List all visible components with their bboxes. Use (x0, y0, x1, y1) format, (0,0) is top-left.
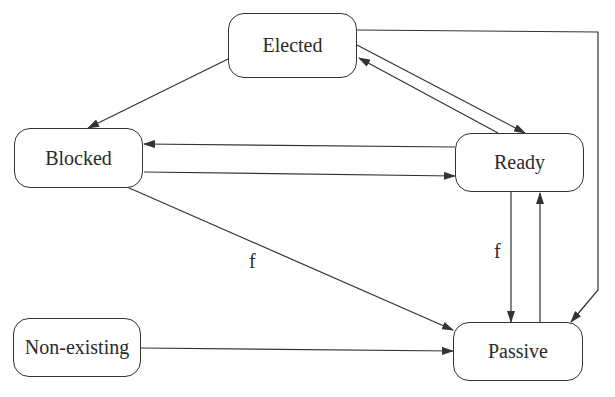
state-ready: Ready (455, 133, 584, 192)
state-passive-label: Passive (488, 340, 548, 363)
edge-blocked-ready (144, 172, 455, 176)
state-passive: Passive (453, 322, 583, 381)
state-non-existing: Non-existing (13, 318, 141, 377)
edge-ready-elected (359, 58, 498, 133)
edge-elected-blocked (88, 59, 228, 128)
edge-elected-ready (357, 45, 525, 133)
edge-nonexisting-passive (141, 348, 453, 351)
edge-label-blocked-passive: f (249, 250, 256, 273)
edge-ready-blocked (144, 144, 455, 147)
state-blocked-label: Blocked (45, 147, 112, 170)
state-elected: Elected (228, 13, 357, 78)
state-elected-label: Elected (263, 34, 323, 57)
state-non-existing-label: Non-existing (25, 336, 129, 359)
edge-label-ready-passive: f (494, 240, 501, 263)
state-ready-label: Ready (494, 151, 545, 174)
edge-blocked-passive (127, 187, 453, 330)
state-blocked: Blocked (14, 128, 143, 188)
